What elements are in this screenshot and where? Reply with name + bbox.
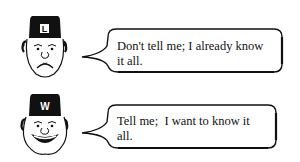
smiling-face-icon: W <box>14 86 74 158</box>
speech-text: Tell me; I want to know it all. <box>117 114 265 144</box>
frowning-face-icon: L <box>14 8 74 80</box>
speech-text: Don't tell me; I already know it all. <box>117 39 269 69</box>
svg-text:W: W <box>40 101 50 112</box>
svg-text:L: L <box>42 24 48 34</box>
